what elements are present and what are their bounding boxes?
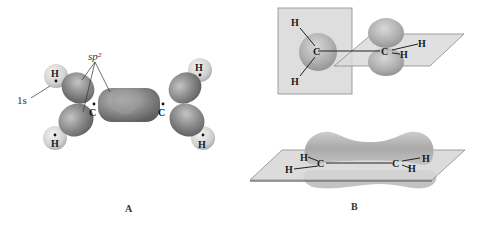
nucleus-h-a4 [202,134,205,137]
atom-h-bb3: H [422,153,430,164]
atom-h-bb2: H [285,164,293,175]
panel-b-planar: H H C C H H B [250,132,465,212]
1s-pointer [31,86,50,98]
ethylene-orbital-diagram: sp² 1s H H H H C C A H H C [0,0,487,227]
atom-h-bt3: H [418,38,426,49]
sp2-label: sp² [88,50,102,62]
1s-label: 1s [17,94,27,106]
sp2-pointer-3 [95,62,110,92]
atom-h-a1: H [51,68,59,79]
p-lobe-right-upper [368,18,404,48]
atom-c-bb2: C [392,158,399,169]
atom-h-bt1: H [291,17,299,28]
atom-h-bt4: H [400,49,408,60]
sigma-cc-highlight [111,90,139,114]
nucleus-h-a1 [55,80,58,83]
panel-label-b: B [351,201,358,212]
atom-h-a2: H [51,138,59,149]
atom-c-right: C [158,107,165,118]
nucleus-c-right [162,103,165,106]
atom-c-bb1: C [317,158,324,169]
panel-label-a: A [125,203,133,214]
atom-c-bt1: C [313,46,320,57]
atom-h-a4: H [198,139,206,150]
nucleus-c-left [93,103,96,106]
atom-c-bt2: C [381,46,388,57]
atom-h-bb1: H [300,152,308,163]
atom-h-bb4: H [408,163,416,174]
atom-h-bt2: H [291,76,299,87]
panel-a: sp² 1s H H H H C C A [17,50,215,214]
nucleus-h-a2 [54,134,57,137]
nucleus-h-a3 [199,74,202,77]
atom-h-a3: H [195,62,203,73]
atom-c-left: C [89,107,96,118]
panel-b-twisted: H H C C H H [278,8,464,94]
